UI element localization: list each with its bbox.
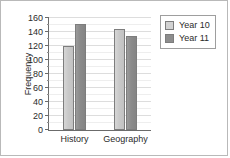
legend-item[interactable]: Year 11 bbox=[165, 32, 210, 45]
y-tick-minor bbox=[47, 66, 50, 67]
y-tick bbox=[45, 101, 49, 102]
plot-area: 020406080100120140160 HistoryGeography bbox=[48, 18, 151, 131]
legend: Year 10Year 11 bbox=[160, 15, 216, 49]
y-tick-label: 120 bbox=[28, 42, 43, 51]
y-tick-label: 60 bbox=[33, 84, 43, 93]
y-tick bbox=[45, 31, 49, 32]
x-tick-label: Geography bbox=[103, 135, 148, 144]
y-tick-label: 140 bbox=[28, 28, 43, 37]
y-tick-minor bbox=[47, 80, 50, 81]
y-tick bbox=[45, 45, 49, 46]
legend-item[interactable]: Year 10 bbox=[165, 19, 210, 32]
gridline bbox=[49, 31, 151, 32]
y-tick-minor bbox=[47, 94, 50, 95]
y-tick-label: 20 bbox=[33, 112, 43, 121]
y-tick-minor bbox=[47, 108, 50, 109]
y-tick-minor bbox=[47, 52, 50, 53]
bar bbox=[126, 36, 137, 131]
gridline-minor bbox=[49, 24, 151, 25]
y-tick bbox=[45, 129, 49, 130]
y-tick-minor bbox=[47, 24, 50, 25]
bar bbox=[63, 46, 74, 130]
legend-label: Year 10 bbox=[179, 21, 210, 30]
bar bbox=[114, 29, 125, 131]
legend-swatch-icon bbox=[165, 34, 174, 43]
y-tick bbox=[45, 17, 49, 18]
y-tick-minor bbox=[47, 38, 50, 39]
gridline bbox=[49, 17, 151, 18]
legend-label: Year 11 bbox=[179, 34, 209, 43]
y-tick bbox=[45, 115, 49, 116]
bar bbox=[75, 24, 86, 130]
y-tick-label: 0 bbox=[38, 126, 43, 135]
y-tick bbox=[45, 87, 49, 88]
y-tick bbox=[45, 59, 49, 60]
y-tick-label: 160 bbox=[28, 14, 43, 23]
y-tick-label: 80 bbox=[33, 70, 43, 79]
y-tick-label: 40 bbox=[33, 98, 43, 107]
x-tick-label: History bbox=[60, 135, 88, 144]
y-tick bbox=[45, 73, 49, 74]
y-tick-label: 100 bbox=[28, 56, 43, 65]
y-tick-minor bbox=[47, 122, 50, 123]
chart-figure: Frequency 020406080100120140160 HistoryG… bbox=[0, 0, 228, 156]
legend-swatch-icon bbox=[165, 21, 174, 30]
